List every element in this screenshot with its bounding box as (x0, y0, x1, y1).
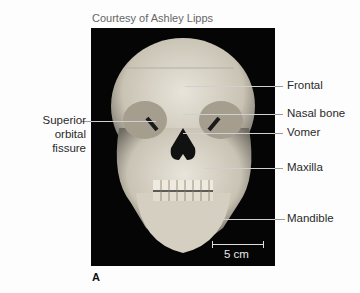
skull-illustration (91, 28, 275, 266)
label-mandible: Mandible (287, 212, 334, 224)
leader-line-vomer (183, 133, 275, 134)
label-vomer: Vomer (287, 126, 320, 138)
skull-photo (91, 28, 275, 266)
label-maxilla: Maxilla (287, 161, 323, 173)
leader-line-maxilla (205, 168, 275, 169)
leader-line-maxilla-ext (275, 168, 283, 169)
label-line-3: fissure (26, 141, 86, 155)
label-frontal: Frontal (287, 79, 323, 91)
panel-letter: A (92, 271, 100, 283)
leader-line-mandible (212, 219, 275, 220)
leader-line-frontal (185, 86, 275, 87)
leader-line-vomer-ext (275, 133, 283, 134)
leader-line-mandible-ext (275, 219, 285, 220)
label-nasal-bone: Nasal bone (287, 107, 345, 119)
label-line-2: orbital (26, 127, 86, 141)
label-superior-orbital-fissure: Superior orbital fissure (26, 113, 86, 155)
leader-line-superior-orbital-fissure (91, 121, 156, 122)
leader-line-nasal-bone-ext (275, 114, 283, 115)
leader-line-nasal-bone (183, 114, 275, 115)
leader-line-frontal-ext (275, 86, 283, 87)
photo-credit: Courtesy of Ashley Lipps (92, 12, 213, 24)
scale-bar-label: 5 cm (224, 248, 249, 260)
scale-bar (212, 244, 264, 245)
label-line-1: Superior (26, 113, 86, 127)
